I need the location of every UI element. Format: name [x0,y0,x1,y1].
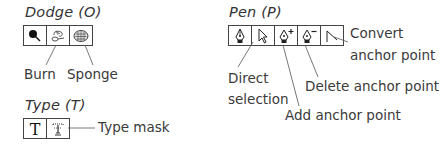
convert-icon [324,28,340,44]
dodge-toolbar [23,25,93,46]
svg-text:T: T [30,121,41,137]
arrow-icon [256,28,270,44]
delete-anchor-point-leader-line [305,45,318,77]
type-mask-icon [50,121,66,137]
sponge-icon [72,28,90,44]
direct-selection-label-line1: Direct [228,70,268,86]
convert-anchor-point-tool-button[interactable] [321,26,343,45]
pen-toolbar [228,25,344,46]
direct-selection-tool-button[interactable] [252,26,275,45]
sponge-tool-button[interactable] [70,26,92,45]
pen-tool-button[interactable] [229,26,252,45]
type-group-title: Type (T) [25,97,86,113]
convert-anchor-point-label-line2: anchor point [350,47,435,63]
pen-group-title: Pen (P) [229,4,282,20]
type-icon: T [27,121,43,137]
direct-selection-label-line2: selection [228,91,289,107]
sponge-leader-line [85,45,93,65]
burn-label: Burn [24,66,56,82]
sponge-label: Sponge [67,66,118,82]
burn-leader-line [46,45,56,65]
type-mask-label: Type mask [98,119,170,135]
dodge-tool-button[interactable] [24,26,47,45]
type-mask-tool-button[interactable] [47,119,69,138]
burn-tool-button[interactable] [47,26,70,45]
type-toolbar: T [23,118,70,139]
burn-icon [49,28,67,44]
add-anchor-point-label: Add anchor point [285,107,401,123]
dodge-icon [27,28,43,44]
pen-plus-icon [277,28,295,44]
convert-anchor-point-label-line1: Convert [350,25,403,41]
type-tool-button[interactable]: T [24,119,47,138]
delete-anchor-point-tool-button[interactable] [298,26,321,45]
pen-icon [233,28,247,44]
pen-minus-icon [300,28,318,44]
delete-anchor-point-label: Delete anchor point [305,78,439,94]
dodge-group-title: Dodge (O) [25,4,102,20]
add-anchor-point-tool-button[interactable] [275,26,298,45]
